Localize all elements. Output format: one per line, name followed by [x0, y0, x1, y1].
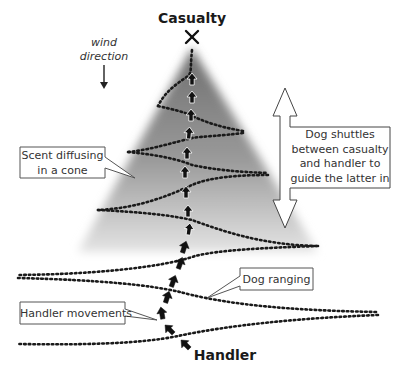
- cross-icon: [186, 31, 198, 43]
- ranging-callout-text: Dog ranging: [240, 272, 313, 287]
- shuttle-callout-line2: between casualty: [290, 143, 390, 158]
- wind-label-line2: direction: [74, 50, 134, 64]
- casualty-label: Casualty: [157, 10, 227, 26]
- scent-callout-line2: in a cone: [20, 163, 105, 178]
- shuttle-callout-line3: and handler to: [290, 157, 390, 172]
- shuttle-callout-text: Dog shuttles between casualty and handle…: [290, 128, 390, 186]
- scent-diagram: Casualty Handler wind direction Scent di…: [0, 0, 400, 379]
- scent-callout-line1: Scent diffusing: [20, 148, 105, 163]
- shuttle-callout-line4: guide the latter in: [290, 172, 390, 187]
- wind-label: wind direction: [74, 36, 134, 64]
- handler-callout-text: Handler movements: [20, 306, 125, 321]
- arrow-down-icon: [100, 65, 108, 89]
- scent-callout-text: Scent diffusing in a cone: [20, 148, 105, 178]
- shuttle-callout-line1: Dog shuttles: [290, 128, 390, 143]
- handler-label: Handler: [190, 347, 260, 363]
- wind-label-line1: wind: [74, 36, 134, 50]
- diagram-canvas: [0, 0, 400, 379]
